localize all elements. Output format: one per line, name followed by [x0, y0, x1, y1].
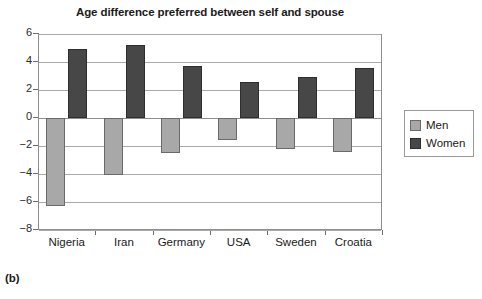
bar-nigeria-women: [68, 49, 87, 118]
gridline--8: [39, 230, 381, 231]
legend-label-women: Women: [426, 137, 465, 149]
x-tick-label-germany: Germany: [153, 236, 210, 248]
bar-germany-women: [183, 66, 202, 118]
bar-croatia-men: [333, 118, 352, 152]
y-tick-label: 6: [0, 26, 32, 38]
y-tick-label: −2: [0, 138, 32, 150]
legend-swatch-women-icon: [410, 138, 421, 149]
legend-swatch-men-icon: [410, 120, 421, 131]
y-tick-label: −4: [0, 166, 32, 178]
bar-nigeria-men: [46, 118, 65, 206]
x-tick-label-nigeria: Nigeria: [38, 236, 95, 248]
bar-usa-men: [218, 118, 237, 140]
bar-iran-men: [104, 118, 123, 175]
plot-area: [38, 34, 382, 230]
gridline-6: [39, 34, 381, 35]
bar-iran-women: [126, 45, 145, 118]
gridline-0: [39, 118, 381, 119]
bar-sweden-women: [298, 77, 317, 118]
chart-legend: Men Women: [404, 110, 474, 157]
x-tick-mark: [382, 230, 383, 235]
bar-croatia-women: [355, 68, 374, 118]
gridline--6: [39, 202, 381, 203]
bar-germany-men: [161, 118, 180, 153]
gridline--2: [39, 146, 381, 147]
gridline-2: [39, 90, 381, 91]
bar-usa-women: [240, 82, 259, 118]
chart-title: Age difference preferred between self an…: [38, 6, 382, 18]
legend-label-men: Men: [426, 119, 448, 131]
x-tick-label-usa: USA: [210, 236, 267, 248]
legend-item-men[interactable]: Men: [410, 116, 473, 134]
y-tick-label: 0: [0, 110, 32, 122]
bar-sweden-men: [276, 118, 295, 149]
x-tick-label-croatia: Croatia: [325, 236, 382, 248]
gridline--4: [39, 174, 381, 175]
x-tick-label-iran: Iran: [95, 236, 152, 248]
y-tick-label: 2: [0, 82, 32, 94]
gridline-4: [39, 62, 381, 63]
panel-caption: (b): [5, 272, 20, 284]
y-tick-label: 4: [0, 54, 32, 66]
y-tick-label: −6: [0, 194, 32, 206]
figure-panel-b: Age difference preferred between self an…: [0, 0, 482, 299]
legend-item-women[interactable]: Women: [410, 134, 473, 152]
x-tick-label-sweden: Sweden: [267, 236, 324, 248]
y-tick-label: −8: [0, 222, 32, 234]
